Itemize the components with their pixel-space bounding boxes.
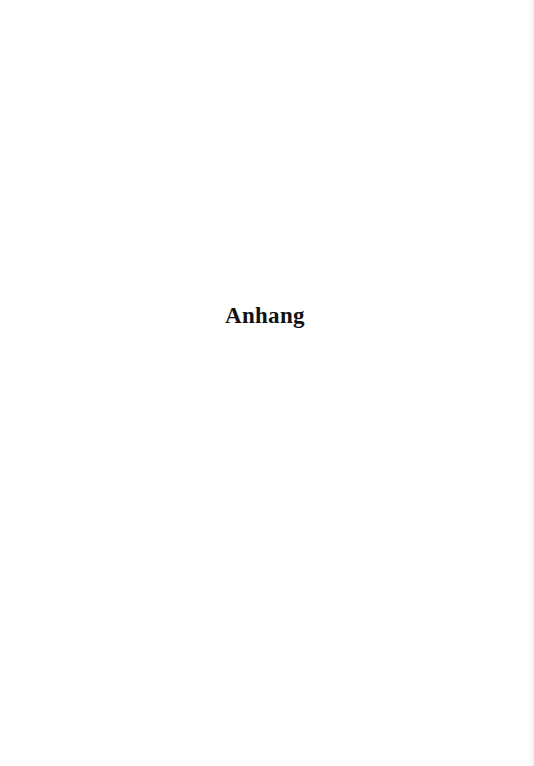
document-page: Anhang xyxy=(0,0,534,766)
page-heading: Anhang xyxy=(225,302,305,330)
page-edge-shadow xyxy=(528,0,534,766)
